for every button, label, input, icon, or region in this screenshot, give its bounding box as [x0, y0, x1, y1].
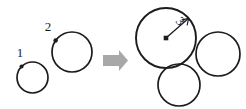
bottom-satellite-circle-outline [158, 64, 200, 106]
right-circle-group: 3 [136, 8, 240, 106]
circle-one-marker-dot [20, 65, 24, 69]
figure-root: 1 2 3 [0, 0, 246, 109]
right-satellite-circle-outline [196, 32, 240, 76]
circle-two-marker-dot [53, 38, 57, 42]
circle-diagram-canvas: 1 2 3 [0, 0, 246, 109]
left-circle-group: 1 2 [17, 19, 92, 93]
circle-two-label: 2 [45, 19, 52, 34]
circle-one-label: 1 [17, 45, 24, 60]
circle-three-center-dot [164, 36, 169, 41]
circle-two-outline [52, 32, 92, 72]
right-block-arrow-icon [103, 50, 128, 71]
transform-arrow-group [103, 50, 128, 71]
